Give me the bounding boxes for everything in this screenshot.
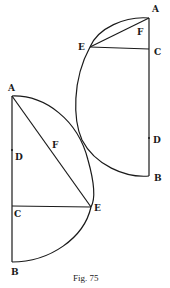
left-semicircle-arc bbox=[12, 96, 94, 262]
left-line-ae bbox=[12, 96, 91, 207]
right-line-ec bbox=[90, 47, 149, 49]
right-point-d bbox=[148, 137, 150, 139]
figure-canvas: A F E C D B A F D C E B Fig. 75 bbox=[0, 0, 170, 288]
left-label-d: D bbox=[15, 152, 23, 162]
figure-caption: Fig. 75 bbox=[73, 273, 99, 283]
right-label-c: C bbox=[154, 47, 161, 57]
left-line-ce bbox=[12, 206, 91, 207]
right-label-d: D bbox=[153, 135, 161, 145]
right-diagram: A F E C D B bbox=[76, 4, 162, 183]
left-label-c: C bbox=[14, 209, 21, 219]
right-semicircle-arc bbox=[76, 18, 149, 176]
right-label-e: E bbox=[78, 42, 85, 52]
left-label-f: F bbox=[52, 140, 59, 150]
right-label-b: B bbox=[154, 173, 162, 183]
right-label-a: A bbox=[151, 4, 160, 14]
left-label-b: B bbox=[11, 267, 19, 277]
left-label-e: E bbox=[94, 203, 101, 213]
right-label-f: F bbox=[137, 27, 144, 37]
left-diagram: A F D C E B bbox=[7, 83, 101, 277]
left-point-d bbox=[11, 149, 13, 151]
left-label-a: A bbox=[7, 83, 16, 93]
